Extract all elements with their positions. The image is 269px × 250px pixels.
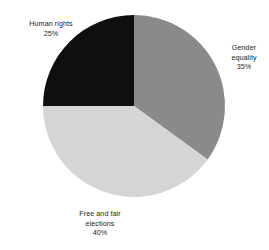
- pie-label-human-rights-name: Human rights: [8, 19, 94, 29]
- pie-chart: Human rights 25% Gender equality 35% Fre…: [0, 0, 269, 250]
- pie-label-free-and-fair-elections-name-line1: Free and fair: [56, 209, 144, 219]
- pie-label-gender-equality-name-line2: equality: [219, 53, 269, 63]
- pie-label-free-and-fair-elections-value: 40%: [56, 228, 144, 238]
- pie-label-gender-equality: Gender equality 35%: [219, 43, 269, 72]
- pie-label-free-and-fair-elections-name-line2: elections: [56, 219, 144, 229]
- pie-label-human-rights: Human rights 25%: [8, 19, 94, 38]
- pie-label-gender-equality-name-line1: Gender: [219, 43, 269, 53]
- pie-label-gender-equality-value: 35%: [219, 62, 269, 72]
- pie-label-human-rights-value: 25%: [8, 29, 94, 39]
- pie-label-free-and-fair-elections: Free and fair elections 40%: [56, 209, 144, 238]
